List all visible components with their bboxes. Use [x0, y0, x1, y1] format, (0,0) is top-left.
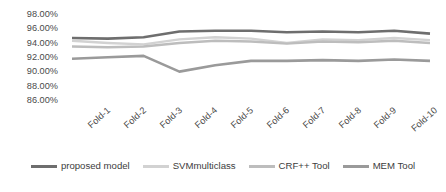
legend-item[interactable]: proposed model [31, 161, 130, 171]
legend-item[interactable]: MEM Tool [343, 161, 415, 171]
x-axis: Fold-1Fold-2Fold-3Fold-4Fold-5Fold-6Fold… [62, 106, 440, 148]
legend-swatch-icon [343, 165, 369, 168]
plot-svg [62, 10, 440, 106]
x-tick-label: Fold-9 [373, 106, 399, 130]
x-tick-label: Fold-7 [301, 106, 327, 130]
legend-swatch-icon [143, 165, 169, 168]
legend-label: proposed model [61, 161, 130, 171]
x-tick-label: Fold-1 [87, 106, 113, 130]
line-chart: 98.00%96.00%94.00%92.00%90.00%88.00%86.0… [0, 0, 446, 192]
chart-legend: proposed modelSVMmulticlassCRF++ ToolMEM… [0, 157, 446, 175]
x-tick-label: Fold-4 [194, 106, 220, 130]
series-line [72, 56, 430, 72]
plot-area [62, 10, 440, 106]
series-lines [72, 31, 430, 72]
x-tick-label: Fold-5 [230, 106, 256, 130]
y-tick-label: 86.00% [27, 96, 58, 105]
y-tick-label: 98.00% [27, 10, 58, 19]
x-tick-label: Fold-6 [266, 106, 292, 130]
x-tick-label: Fold-3 [158, 106, 184, 130]
y-axis: 98.00%96.00%94.00%92.00%90.00%88.00%86.0… [0, 0, 62, 112]
x-tick-label: Fold-10 [410, 106, 440, 134]
legend-swatch-icon [249, 165, 275, 168]
legend-label: CRF++ Tool [279, 161, 330, 171]
y-tick-label: 90.00% [27, 67, 58, 76]
x-tick-label: Fold-8 [337, 106, 363, 130]
y-tick-label: 92.00% [27, 53, 58, 62]
legend-label: MEM Tool [373, 161, 415, 171]
y-tick-label: 94.00% [27, 39, 58, 48]
y-tick-label: 96.00% [27, 24, 58, 33]
x-tick-label: Fold-2 [122, 106, 148, 130]
legend-item[interactable]: SVMmulticlass [143, 161, 236, 171]
y-tick-label: 88.00% [27, 82, 58, 91]
legend-label: SVMmulticlass [173, 161, 236, 171]
legend-swatch-icon [31, 165, 57, 168]
legend-item[interactable]: CRF++ Tool [249, 161, 330, 171]
